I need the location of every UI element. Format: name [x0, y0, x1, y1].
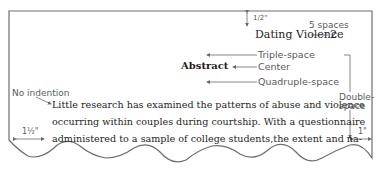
double-space-label-2: space	[339, 101, 365, 111]
body-line-3: administered to a sample of college stud…	[52, 133, 362, 144]
top-margin-label: 1/2"	[253, 14, 268, 22]
five-spaces-label: 5 spaces	[309, 20, 349, 30]
triple-space-label: Triple-space	[258, 49, 315, 60]
no-indention-label: No indention	[12, 88, 70, 98]
body-line-1: Little research has examined the pattern…	[52, 99, 365, 110]
center-label: Center	[258, 61, 290, 72]
body-line-2: occurring within couples during courtshi…	[52, 116, 365, 127]
abstract-heading: Abstract	[181, 60, 228, 71]
quadruple-space-label: Quadruple-space	[258, 76, 339, 87]
right-margin-label: 1"	[358, 127, 367, 136]
left-margin-label: 1½"	[22, 127, 39, 136]
